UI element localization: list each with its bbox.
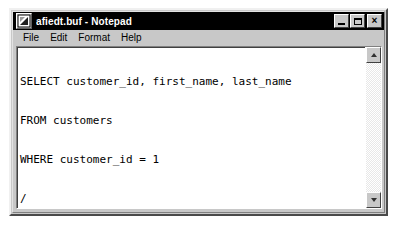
text-line: / [20,192,365,205]
scroll-down-button[interactable] [366,192,381,208]
maximize-icon [354,18,362,25]
notepad-window: afiedt.buf - Notepad × File Edit Format … [9,8,388,216]
vertical-scrollbar[interactable] [365,47,381,208]
menu-bar: File Edit Format Help [13,30,384,46]
close-button[interactable]: × [367,14,382,28]
title-bar[interactable]: afiedt.buf - Notepad × [13,12,384,30]
text-line: WHERE customer_id = 1 [20,153,365,166]
text-line: SELECT customer_id, first_name, last_nam… [20,75,365,88]
minimize-button[interactable] [334,14,349,28]
text-editor[interactable]: SELECT customer_id, first_name, last_nam… [17,47,365,208]
menu-item-help[interactable]: Help [116,31,148,45]
maximize-button[interactable] [350,14,365,28]
scrollbar-track[interactable] [366,63,381,192]
scroll-up-arrow-icon [371,53,377,57]
minimize-icon [338,23,345,25]
close-icon: × [372,16,378,26]
menu-item-edit[interactable]: Edit [45,31,73,45]
window-inner-frame: afiedt.buf - Notepad × File Edit Format … [12,11,385,213]
menu-item-format[interactable]: Format [73,31,116,45]
text-edit-region: SELECT customer_id, first_name, last_nam… [16,46,382,209]
menu-item-file[interactable]: File [18,31,45,45]
notepad-document-icon [16,13,32,29]
scroll-up-button[interactable] [366,47,381,63]
scroll-down-arrow-icon [371,198,377,202]
text-line: FROM customers [20,114,365,127]
window-controls: × [334,14,382,28]
window-title: afiedt.buf - Notepad [36,16,334,27]
